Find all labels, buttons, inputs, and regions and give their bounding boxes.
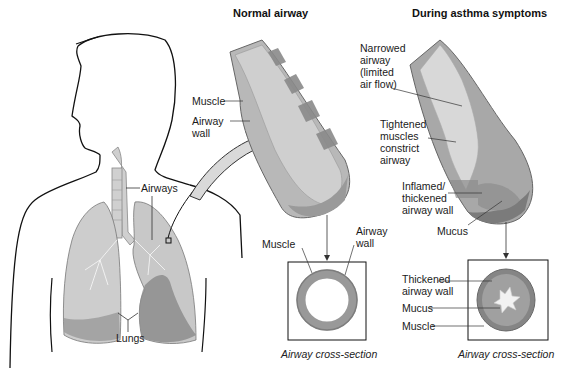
label-inflamed-wall: Inflamed/ thickened airway wall	[402, 180, 453, 216]
normal-airway-tube	[230, 40, 350, 218]
label-xs-muscle-asthma: Muscle	[402, 320, 435, 332]
asthma-diagram	[0, 0, 564, 368]
left-arm-line	[51, 278, 53, 352]
label-lungs: Lungs	[116, 332, 145, 344]
caption-normal-cross-section: Airway cross-section	[281, 348, 377, 360]
head-hair	[76, 37, 98, 44]
label-xs-muscle: Muscle	[262, 238, 295, 250]
label-asthma-mucus: Mucus	[437, 225, 468, 237]
caption-asthma-cross-section: Airway cross-section	[458, 348, 554, 360]
right-arm-line	[202, 278, 206, 352]
label-normal-airway-wall: Airway wall	[192, 115, 224, 139]
label-airways: Airways	[141, 182, 178, 194]
title-asthma: During asthma symptoms	[412, 7, 547, 19]
label-normal-muscle: Muscle	[192, 95, 225, 107]
label-xs-airway-wall: Airway wall	[356, 225, 388, 249]
label-xs-thickened-wall: Thickened airway wall	[402, 273, 453, 297]
label-narrowed-airway: Narrowed airway (limited air flow)	[360, 42, 406, 90]
label-tightened-muscles: Tightened muscles constrict airway	[380, 118, 426, 166]
title-normal-airway: Normal airway	[233, 7, 308, 19]
label-xs-mucus: Mucus	[402, 302, 433, 314]
